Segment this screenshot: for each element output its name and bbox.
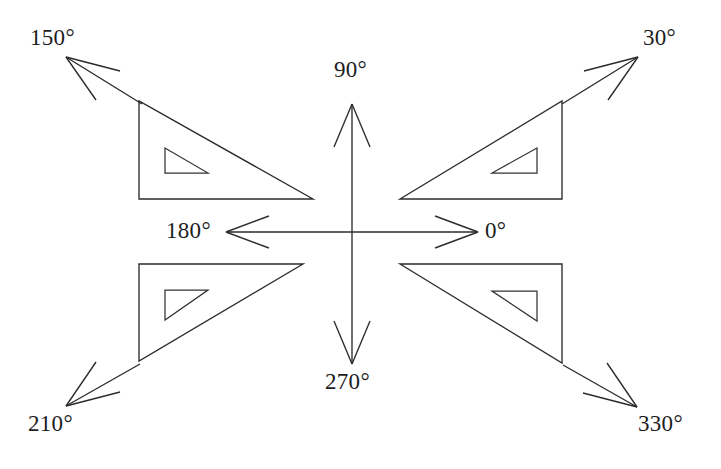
set-square-top-right-outline bbox=[400, 101, 562, 199]
diagram-canvas: 150° 90° 30° 180° 0° 210° 270° 330° bbox=[0, 0, 721, 469]
arrow-30 bbox=[562, 57, 638, 104]
set-square-bottom-left bbox=[139, 264, 303, 361]
set-square-top-left bbox=[139, 101, 313, 199]
angle-label-30: 30° bbox=[643, 26, 676, 49]
arrow-210 bbox=[66, 362, 140, 406]
angle-label-330: 330° bbox=[638, 412, 683, 435]
angle-label-270: 270° bbox=[325, 370, 370, 393]
set-square-bottom-right bbox=[400, 264, 562, 363]
set-square-bottom-right-outline bbox=[400, 264, 562, 363]
arrow-330 bbox=[563, 363, 637, 407]
angle-label-180: 180° bbox=[166, 219, 211, 242]
set-square-bottom-right-cutout bbox=[492, 291, 537, 321]
angle-label-210: 210° bbox=[28, 412, 73, 435]
set-square-bottom-left-cutout bbox=[165, 290, 208, 320]
angle-label-150: 150° bbox=[30, 26, 75, 49]
angle-label-90: 90° bbox=[334, 58, 367, 81]
set-square-top-right bbox=[400, 101, 562, 199]
set-square-top-right-cutout bbox=[492, 148, 537, 173]
set-square-top-left-cutout bbox=[165, 148, 208, 173]
arrow-150 bbox=[66, 57, 142, 104]
axis-group bbox=[226, 104, 478, 364]
set-square-bottom-left-outline bbox=[139, 264, 303, 361]
angle-label-0: 0° bbox=[485, 219, 506, 242]
